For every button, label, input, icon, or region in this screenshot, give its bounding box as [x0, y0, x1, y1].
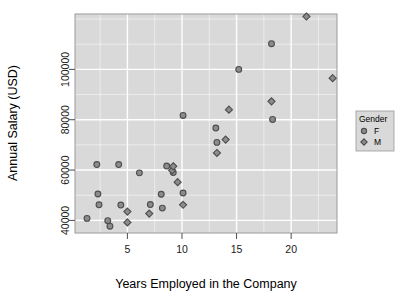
- legend: Gender FM: [356, 111, 394, 151]
- x-axis-title: Years Employed in the Company: [115, 277, 297, 291]
- data-point: [270, 117, 276, 123]
- data-point: [158, 191, 164, 197]
- legend-label-F: F: [374, 126, 379, 136]
- data-point: [147, 202, 153, 208]
- data-point: [118, 202, 124, 208]
- x-tick-label: 5: [124, 243, 130, 255]
- x-tick-label: 15: [231, 243, 243, 255]
- data-point: [159, 205, 165, 211]
- data-point: [116, 162, 122, 168]
- y-tick-label: 60000: [59, 155, 71, 184]
- plot-panel: [75, 14, 337, 233]
- data-point: [236, 66, 242, 72]
- x-tick-label: 20: [285, 243, 297, 255]
- y-tick-label: 100000: [59, 52, 71, 87]
- data-point: [214, 139, 220, 145]
- scatter-plot-canvas: 5101520 400006000080000100000 Years Empl…: [0, 0, 408, 302]
- data-point: [96, 202, 102, 208]
- data-point: [180, 113, 186, 119]
- y-tick-label: 40000: [59, 206, 71, 235]
- legend-marker-F: [361, 128, 366, 133]
- data-point: [137, 170, 143, 176]
- y-tick-label: 80000: [59, 105, 71, 134]
- chart-figure: 5101520 400006000080000100000 Years Empl…: [0, 0, 408, 302]
- data-point: [107, 223, 113, 229]
- data-point: [269, 41, 275, 47]
- data-point: [213, 125, 219, 131]
- data-point: [94, 162, 100, 168]
- data-point: [105, 218, 111, 224]
- data-point: [95, 191, 101, 197]
- legend-title: Gender: [359, 114, 388, 124]
- legend-label-M: M: [374, 137, 381, 147]
- x-tick-label: 10: [176, 243, 188, 255]
- y-axis-title: Annual Salary (USD): [6, 65, 20, 181]
- data-point: [84, 216, 90, 222]
- data-point: [164, 163, 170, 169]
- data-point: [180, 190, 186, 196]
